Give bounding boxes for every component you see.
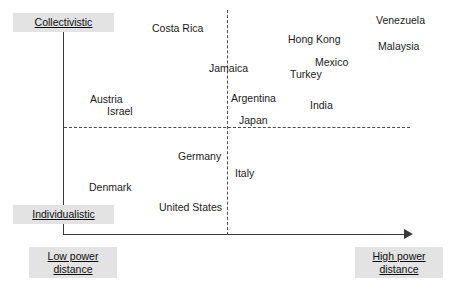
culture-quadrant-diagram: Collectivistic Individualistic Low power… <box>0 0 450 288</box>
country-label: Italy <box>235 167 254 179</box>
axis-label-high-power-line1: High power <box>372 250 425 262</box>
country-label: Israel <box>107 105 133 117</box>
country-label: Venezuela <box>376 14 425 26</box>
vertical-quadrant-divider <box>227 10 228 235</box>
axis-label-collectivistic-text: Collectivistic <box>35 16 93 28</box>
country-label: Argentina <box>231 92 276 104</box>
country-label: Japan <box>239 114 268 126</box>
axis-label-collectivistic: Collectivistic <box>13 13 114 32</box>
country-label: Costa Rica <box>152 22 203 34</box>
country-label: Germany <box>178 150 221 162</box>
country-label: Denmark <box>89 181 132 193</box>
country-label: Turkey <box>290 68 322 80</box>
axis-label-individualistic: Individualistic <box>13 205 114 224</box>
axis-label-low-power-distance: Low power distance <box>29 247 117 278</box>
axis-label-individualistic-text: Individualistic <box>32 208 94 220</box>
horizontal-quadrant-divider <box>64 127 410 128</box>
country-label: Austria <box>90 93 123 105</box>
vertical-axis-line <box>63 28 64 235</box>
axis-label-low-power-line2: distance <box>53 263 92 275</box>
axis-label-high-power-line2: distance <box>379 263 418 275</box>
axis-label-low-power-line1: Low power <box>48 250 99 262</box>
horizontal-axis-line <box>63 234 408 235</box>
country-label: Malaysia <box>378 40 419 52</box>
country-label: Hong Kong <box>288 33 341 45</box>
country-label: Mexico <box>315 56 348 68</box>
country-label: United States <box>159 201 222 213</box>
country-label: Jamaica <box>209 62 248 74</box>
axis-label-high-power-distance: High power distance <box>355 247 443 278</box>
country-label: India <box>310 99 333 111</box>
horizontal-axis-arrowhead <box>404 229 413 239</box>
